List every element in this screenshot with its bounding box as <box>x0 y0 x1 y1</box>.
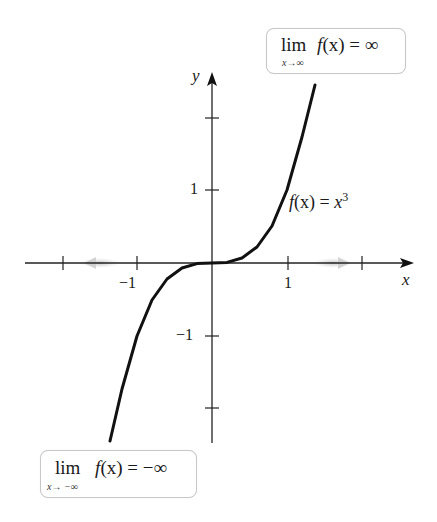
function-label: f(x) = x3 <box>289 190 348 213</box>
plot-canvas <box>0 0 437 522</box>
limit-expression: lim f(x) = −∞ <box>55 457 167 479</box>
function-label-base: x <box>334 192 342 212</box>
lim-argument: (x) <box>322 34 344 55</box>
y-tick-label-1: 1 <box>190 180 198 198</box>
limit-subscript: x→ −∞ <box>47 481 78 492</box>
limit-expression: lim f(x) = ∞ <box>281 34 378 56</box>
y-axis-label: y <box>192 66 200 86</box>
limit-box-positive-infinity: lim f(x) = ∞ x→∞ <box>266 28 406 74</box>
x-tick-label-neg1: −1 <box>119 274 136 292</box>
x-tick-label-1: 1 <box>284 274 292 292</box>
lim-argument: (x) <box>100 457 122 478</box>
lim-rhs: = ∞ <box>345 34 379 55</box>
function-label-exp: 3 <box>342 190 348 204</box>
lim-rhs: = −∞ <box>123 457 167 478</box>
limit-box-negative-infinity: lim f(x) = −∞ x→ −∞ <box>40 450 197 498</box>
y-tick-label-neg1: −1 <box>176 326 193 344</box>
x-axis-label: x <box>402 270 410 290</box>
function-label-arg: (x) <box>294 192 315 212</box>
limit-subscript: x→∞ <box>282 57 304 68</box>
lim-operator: lim <box>281 34 306 55</box>
lim-operator: lim <box>55 457 80 478</box>
y-axis <box>205 72 219 443</box>
function-label-eq: = <box>315 192 334 212</box>
